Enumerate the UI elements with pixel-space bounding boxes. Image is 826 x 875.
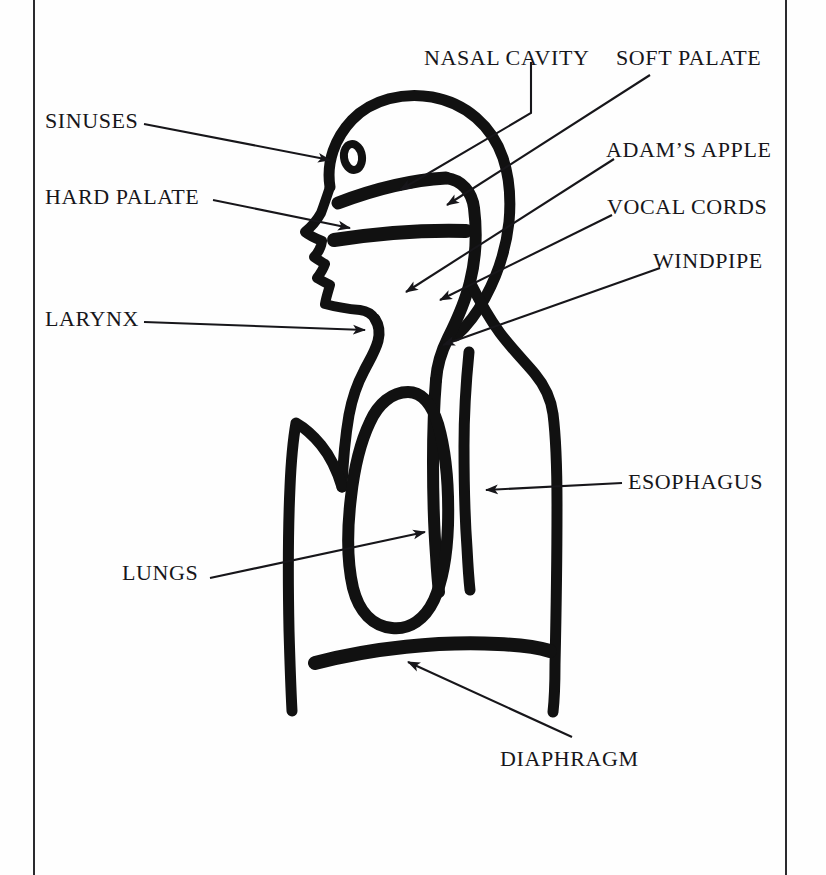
lungs-leader — [210, 532, 425, 578]
label-nasal-cavity: NASAL CAVITY — [424, 47, 590, 69]
label-windpipe: WINDPIPE — [653, 250, 763, 272]
diaphragm-band — [315, 643, 550, 663]
label-soft-palate: SOFT PALATE — [616, 47, 761, 69]
label-sinuses: SINUSES — [45, 110, 138, 132]
hard-palate-band — [334, 231, 466, 240]
label-hard-palate: HARD PALATE — [45, 186, 199, 208]
label-vocal-cords: VOCAL CORDS — [607, 196, 767, 218]
label-lungs: LUNGS — [122, 562, 198, 584]
esophagus-line — [464, 352, 470, 590]
label-esophagus: ESOPHAGUS — [628, 471, 763, 493]
label-adams-apple: ADAM’S APPLE — [606, 139, 772, 161]
nasal-cavity-band — [338, 178, 446, 203]
label-diaphragm: DIAPHRAGM — [500, 748, 639, 770]
label-larynx: LARYNX — [45, 308, 139, 330]
diaphragm-leader — [408, 662, 572, 737]
eye — [342, 143, 363, 171]
diagram-page: SINUSES HARD PALATE LARYNX LUNGS NASAL C… — [0, 0, 826, 875]
larynx-leader — [144, 322, 365, 330]
sinuses-leader — [144, 124, 330, 160]
